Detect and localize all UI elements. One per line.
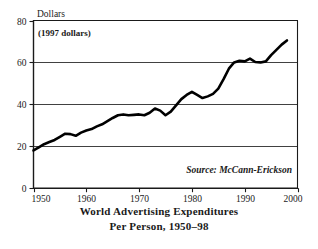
x-tick-label: 1950 <box>32 194 51 204</box>
y-tick-label: 80 <box>17 17 27 27</box>
x-axis-tick-labels: 195019601970198019902000 <box>32 194 303 204</box>
line-chart: Dollars (1997 dollars) Source: McCann-Er… <box>0 0 318 249</box>
y-tick-label: 60 <box>17 58 27 68</box>
y-axis-title: Dollars <box>37 9 65 19</box>
y-axis-tick-labels: 020406080 <box>17 17 27 194</box>
y-tick-label: 20 <box>17 142 27 152</box>
units-note: (1997 dollars) <box>38 28 91 38</box>
source-note: Source: McCann-Erickson <box>186 165 292 175</box>
x-tick-label: 1960 <box>77 194 96 204</box>
y-tick-label: 0 <box>22 184 27 194</box>
data-series-line <box>34 40 287 150</box>
caption-line-1: World Advertising Expenditures <box>80 205 239 217</box>
x-tick-label: 1970 <box>130 194 149 204</box>
x-tick-label: 2000 <box>284 194 303 204</box>
x-tick-label: 1980 <box>183 194 202 204</box>
x-tick-label: 1990 <box>236 194 255 204</box>
caption-line-2: Per Person, 1950–98 <box>109 220 209 232</box>
chart-figure: Dollars (1997 dollars) Source: McCann-Er… <box>0 0 318 249</box>
y-tick-label: 40 <box>17 100 27 110</box>
